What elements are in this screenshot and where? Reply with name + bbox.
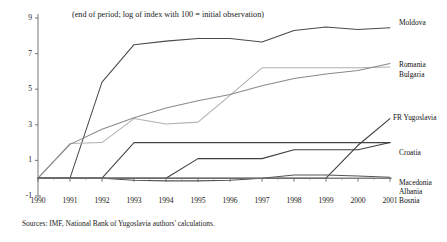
series-label-fr-yugoslavia: FR Yugoslavia bbox=[393, 113, 436, 122]
series-line-moldova bbox=[38, 27, 390, 178]
series-label-moldova: Moldova bbox=[399, 18, 426, 27]
series-line-bulgaria bbox=[38, 63, 390, 178]
series-line-macedonia bbox=[38, 143, 390, 179]
x-tick-label: 1995 bbox=[183, 196, 213, 205]
series-label-macedonia: Macedonia bbox=[399, 178, 432, 187]
x-tick-label: 1992 bbox=[87, 196, 117, 205]
x-tick-label: 1994 bbox=[151, 196, 181, 205]
y-tick-label: 9 bbox=[14, 13, 32, 22]
series-label-romania: Romania bbox=[399, 60, 426, 69]
series-line-romania bbox=[38, 67, 390, 178]
chart-container: (end of period; log of index with 100 = … bbox=[0, 0, 447, 242]
x-tick-label: 1993 bbox=[119, 196, 149, 205]
x-tick-label: 2000 bbox=[343, 196, 373, 205]
x-tick-label: 1991 bbox=[55, 196, 85, 205]
y-tick-label: 5 bbox=[14, 84, 32, 93]
x-tick-label: 1999 bbox=[311, 196, 341, 205]
series-label-bulgaria: Bulgaria bbox=[399, 70, 424, 79]
x-tick-label: 1997 bbox=[247, 196, 277, 205]
x-tick-label: 1996 bbox=[215, 196, 245, 205]
series-label-bosnia: Bosnia bbox=[399, 196, 420, 205]
series-label-albania: Albania bbox=[399, 187, 422, 196]
y-tick-label: 7 bbox=[14, 49, 32, 58]
line-chart-plot bbox=[0, 0, 447, 242]
x-tick-label: 1990 bbox=[23, 196, 53, 205]
series-label-croatia: Croatia bbox=[399, 148, 421, 157]
y-tick-label: 1 bbox=[14, 155, 32, 164]
source-note: Sources: IMF, National Bank of Yugoslavi… bbox=[22, 219, 215, 228]
y-tick-label: 3 bbox=[14, 120, 32, 129]
x-tick-label: 1998 bbox=[279, 196, 309, 205]
series-line-fr-yugoslavia bbox=[38, 119, 390, 179]
series-line-croatia bbox=[38, 143, 390, 179]
